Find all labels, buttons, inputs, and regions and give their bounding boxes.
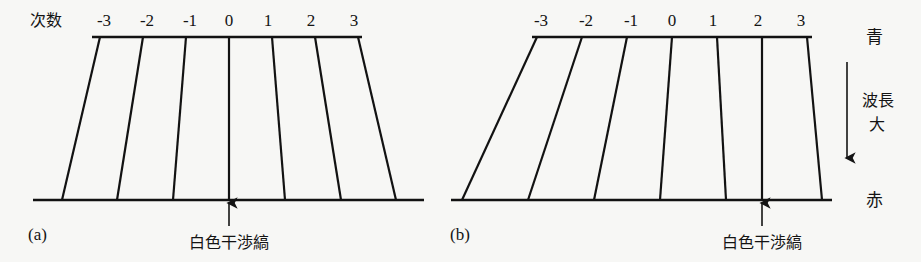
order-label-b-0: -3: [534, 11, 548, 30]
fringe-line-a-order--2: [117, 37, 143, 200]
order-label-a-4: 1: [264, 11, 273, 30]
figure-container: 次数 -3 -2 -1 0 1 2 3 白: [0, 0, 921, 262]
order-label-b-4: 1: [709, 11, 718, 30]
fringe-line-b-order-3: [807, 37, 822, 200]
order-label-a-3: 0: [225, 11, 234, 30]
fringe-line-a-order--1: [173, 37, 186, 200]
fringe-line-a-order-3: [358, 37, 396, 200]
spectrum-blue-label: 青: [866, 28, 883, 47]
spectrum-legend: 青 波長 大 赤: [847, 28, 894, 210]
fringe-line-a-order--3: [62, 37, 100, 200]
order-label-a-6: 3: [350, 11, 359, 30]
white-fringe-label-a: 白色干渉縞: [189, 234, 269, 251]
order-label-a-1: -2: [140, 11, 154, 30]
order-label-b-6: 3: [797, 11, 806, 30]
order-label-a-2: -1: [183, 11, 197, 30]
fringe-line-b-order--3: [462, 37, 537, 200]
panel-a: 次数 -3 -2 -1 0 1 2 3 白: [28, 11, 424, 251]
panel-b-fringe-lines: [462, 37, 822, 200]
order-label-b-5: 2: [754, 11, 763, 30]
order-label-a-0: -3: [97, 11, 111, 30]
panel-caption-b: (b): [450, 225, 470, 244]
order-label-b-1: -2: [579, 11, 593, 30]
panel-a-order-labels: -3 -2 -1 0 1 2 3: [97, 11, 358, 30]
order-label-b-3: 0: [668, 11, 677, 30]
panel-a-fringe-lines: [62, 37, 396, 200]
fringe-line-b-order-0: [660, 37, 672, 200]
fringe-line-a-order-1: [272, 37, 285, 200]
order-axis-title: 次数: [30, 12, 62, 29]
order-label-a-5: 2: [307, 11, 316, 30]
white-fringe-label-b: 白色干渉縞: [722, 234, 802, 251]
order-label-b-2: -1: [624, 11, 638, 30]
wavelength-label-line1: 波長: [862, 92, 894, 109]
spectrum-red-label: 赤: [866, 191, 883, 210]
fringe-line-b-order-1: [717, 37, 726, 200]
interference-fringe-figure: 次数 -3 -2 -1 0 1 2 3 白: [0, 0, 921, 262]
panel-caption-a: (a): [28, 225, 47, 244]
wavelength-label-line2: 大: [869, 116, 885, 133]
panel-b-order-labels: -3 -2 -1 0 1 2 3: [534, 11, 805, 30]
fringe-line-a-order-2: [315, 37, 341, 200]
fringe-line-b-order--1: [594, 37, 627, 200]
fringe-line-b-order--2: [528, 37, 582, 200]
panel-b: -3 -2 -1 0 1 2 3 白色干渉縞 (b): [450, 11, 832, 251]
